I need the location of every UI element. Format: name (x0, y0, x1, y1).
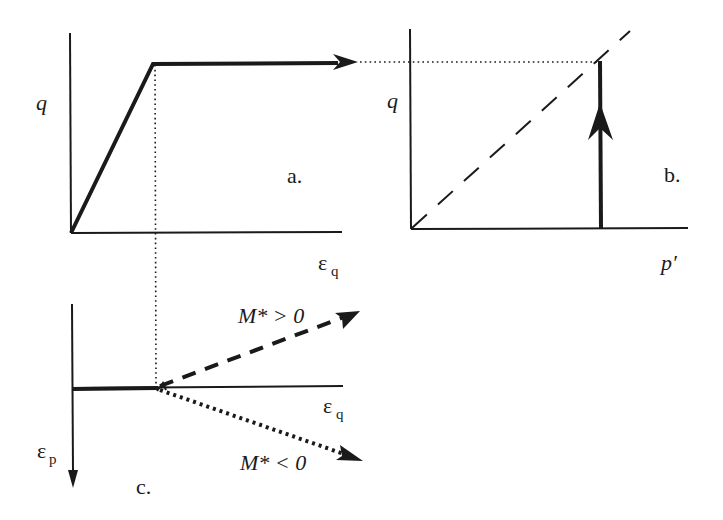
panel-b-stress-path (600, 61, 601, 229)
panel-c-upper-arrowhead-icon (335, 311, 360, 329)
panel-b-x-label: p′ (659, 250, 678, 275)
panel-a-x-axis (71, 232, 342, 233)
svg-text:p: p (49, 451, 57, 467)
svg-text:q: q (336, 406, 344, 422)
panel-c-lower-branch-label: M* < 0 (239, 450, 306, 475)
panel-a-y-axis (70, 33, 71, 233)
panel-c: M* > 0 M* < 0 ε q ε p c. (37, 303, 363, 499)
panel-b-y-label: q (387, 88, 398, 113)
panel-a-stress-strain-path (71, 63, 338, 233)
panel-c-y-label: ε p (37, 438, 57, 467)
panel-a-x-label: ε q (318, 250, 339, 279)
panel-c-volumetric-path (73, 388, 158, 389)
panel-c-upper-branch-label: M* > 0 (237, 303, 304, 328)
panel-b-y-axis (410, 29, 411, 229)
panel-b: q b. p′ (387, 29, 688, 275)
panel-c-x-label: ε q (323, 393, 344, 422)
panel-c-branch-contractive (160, 390, 344, 454)
connector-a-to-c (155, 65, 156, 385)
panel-b-label: b. (664, 162, 681, 187)
panel-c-y-axis (72, 304, 73, 472)
svg-text:ε: ε (318, 250, 327, 275)
panel-a: q a. ε q (36, 33, 358, 279)
svg-text:ε: ε (37, 438, 46, 463)
panel-a-y-label: q (36, 90, 47, 115)
stress-strain-diagram: q a. ε q q b. p′ M* > 0 M* < 0 (0, 0, 723, 520)
svg-text:q: q (331, 263, 339, 279)
panel-a-label: a. (287, 163, 302, 188)
panel-c-y-arrowhead-icon (68, 470, 78, 488)
panel-c-label: c. (136, 474, 151, 499)
panel-b-x-axis (411, 228, 688, 229)
svg-text:ε: ε (323, 393, 332, 418)
